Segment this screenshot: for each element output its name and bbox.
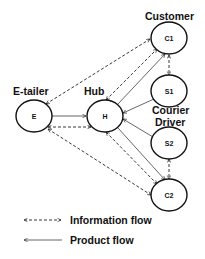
node-s1-label: S1 <box>165 88 174 95</box>
courier-label-line2: Driver <box>155 116 185 128</box>
edge-h-c2-info <box>106 132 157 184</box>
node-h: H <box>87 100 123 132</box>
node-s2: S2 <box>151 127 187 159</box>
customer-label: Customer <box>145 10 194 22</box>
node-c2-label: C2 <box>165 192 174 199</box>
node-h-label: H <box>102 113 107 120</box>
legend-info-flow-label: Information flow <box>70 214 152 226</box>
hub-label: Hub <box>84 85 104 97</box>
etailer-label: E-tailer <box>13 85 49 97</box>
edge-s1-to-h-product <box>123 99 154 113</box>
node-c2: C2 <box>151 179 187 211</box>
legend: Information flow Product flow <box>24 214 152 246</box>
legend-product-flow-label: Product flow <box>70 234 134 246</box>
node-s2-label: S2 <box>165 140 174 147</box>
supply-chain-diagram: Customer E-tailer Hub Courier Driver C1 … <box>0 0 205 259</box>
node-e-label: E <box>32 113 37 120</box>
edge-s2-to-h-product <box>123 119 153 137</box>
node-s1: S1 <box>151 75 187 107</box>
node-e: E <box>16 100 52 132</box>
node-c1-label: C1 <box>165 35 174 42</box>
edge-h-c1-info <box>106 49 157 100</box>
node-c1: C1 <box>151 22 187 54</box>
